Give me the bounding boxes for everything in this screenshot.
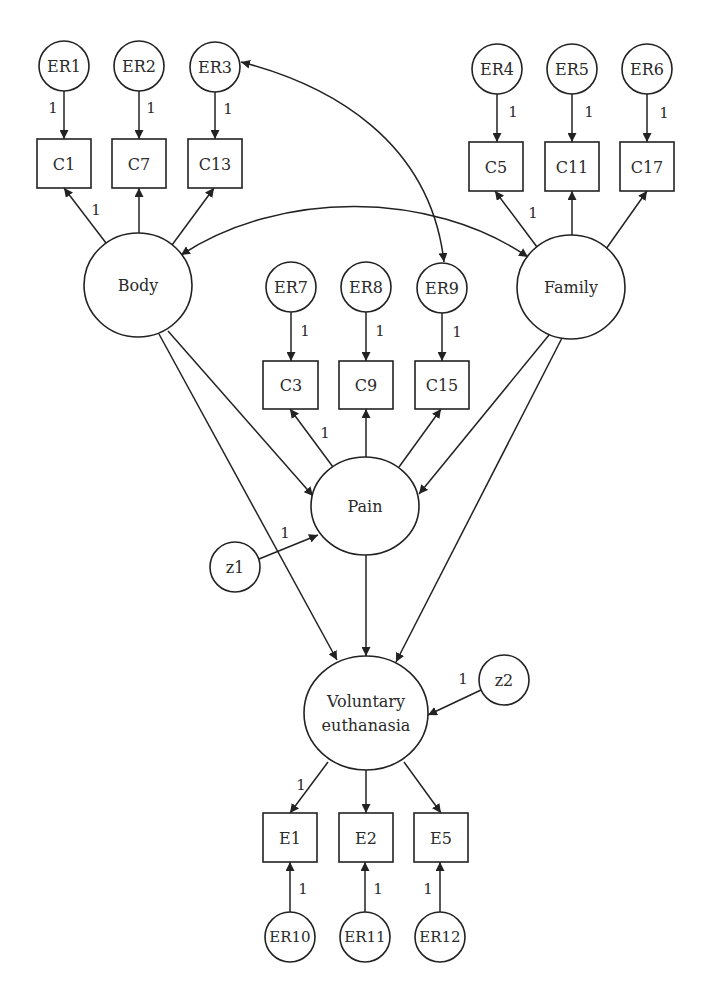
indicator-label: C15 bbox=[426, 376, 459, 395]
indicator-E1: E1 bbox=[263, 813, 317, 862]
error-label: ER4 bbox=[480, 60, 514, 79]
indicator-label: C9 bbox=[355, 376, 377, 395]
latent-family: Family bbox=[517, 235, 625, 339]
error-label: ER10 bbox=[269, 928, 310, 946]
error-label: z2 bbox=[495, 671, 514, 690]
weight-label: 1 bbox=[300, 322, 310, 340]
indicator-label: C5 bbox=[485, 158, 507, 177]
edge-Family-Pain bbox=[419, 335, 549, 494]
indicator-E2: E2 bbox=[339, 813, 393, 862]
latent-body: Body bbox=[84, 233, 192, 337]
edge-z2-VE bbox=[428, 690, 481, 715]
indicator-label: C1 bbox=[53, 155, 75, 174]
indicator-C11: C11 bbox=[545, 142, 599, 191]
indicator-label: C13 bbox=[199, 155, 232, 174]
indicator-C7: C7 bbox=[112, 139, 166, 188]
indicator-label: E2 bbox=[355, 829, 377, 848]
error-label: ER3 bbox=[198, 58, 232, 77]
weight-label: 1 bbox=[423, 880, 433, 898]
error-label: ER6 bbox=[630, 60, 664, 79]
latent-variables: Body Family Pain Voluntary euthanasia bbox=[84, 233, 625, 770]
error-ER11: ER11 bbox=[340, 912, 390, 962]
error-ER8: ER8 bbox=[341, 262, 391, 312]
error-ER7: ER7 bbox=[266, 262, 316, 312]
error-ER4: ER4 bbox=[472, 44, 522, 94]
error-label: z1 bbox=[226, 558, 245, 577]
weight-label: 1 bbox=[373, 880, 383, 898]
weight-label: 1 bbox=[375, 322, 385, 340]
diagram-svg: Body Family Pain Voluntary euthanasia ER… bbox=[0, 0, 703, 990]
weight-label: 1 bbox=[508, 103, 518, 121]
weight-label: 1 bbox=[298, 880, 308, 898]
weight-label: 1 bbox=[48, 99, 58, 117]
latent-pain: Pain bbox=[311, 457, 419, 555]
indicator-E5: E5 bbox=[414, 813, 468, 862]
indicator-label: E5 bbox=[430, 829, 452, 848]
indicator-C1: C1 bbox=[37, 139, 91, 188]
indicator-label: C3 bbox=[280, 376, 302, 395]
edge-Body-C13 bbox=[172, 188, 214, 245]
error-label: ER12 bbox=[419, 928, 460, 946]
indicator-C9: C9 bbox=[339, 361, 393, 409]
indicator-C3: C3 bbox=[263, 361, 318, 409]
weight-label: 1 bbox=[659, 104, 669, 122]
latent-ve-label-line1: Voluntary bbox=[326, 692, 405, 711]
error-ER12: ER12 bbox=[415, 912, 465, 962]
latent-family-label: Family bbox=[544, 278, 598, 297]
weight-label: 1 bbox=[528, 204, 538, 222]
weight-label: 1 bbox=[584, 103, 594, 121]
error-ER2: ER2 bbox=[114, 41, 164, 91]
weight-label: 1 bbox=[296, 776, 306, 794]
error-ER9: ER9 bbox=[417, 263, 467, 313]
error-label: ER2 bbox=[122, 57, 156, 76]
weight-label: 1 bbox=[320, 424, 330, 442]
edge-Family-C17 bbox=[606, 191, 647, 249]
indicator-C15: C15 bbox=[415, 361, 469, 409]
latent-pain-label: Pain bbox=[347, 497, 382, 516]
edge-VE-E5 bbox=[404, 762, 441, 813]
latent-ve-label-line2: euthanasia bbox=[322, 716, 411, 735]
edge-Pain-C15 bbox=[399, 409, 441, 467]
indicator-C17: C17 bbox=[620, 142, 674, 191]
weight-label: 1 bbox=[146, 99, 156, 117]
indicator-C13: C13 bbox=[188, 139, 242, 188]
weight-label: 1 bbox=[280, 524, 290, 542]
disturbance-z1: z1 bbox=[210, 542, 260, 592]
error-label: ER11 bbox=[344, 928, 385, 946]
error-ER3: ER3 bbox=[190, 42, 240, 92]
weight-label: 1 bbox=[91, 201, 101, 219]
weight-label: 1 bbox=[223, 100, 233, 118]
indicator-label: E1 bbox=[279, 829, 301, 848]
weight-label: 1 bbox=[452, 323, 462, 341]
indicator-label: C11 bbox=[556, 158, 589, 177]
latent-body-label: Body bbox=[118, 276, 159, 295]
sem-diagram: Body Family Pain Voluntary euthanasia ER… bbox=[0, 0, 703, 990]
error-ER1: ER1 bbox=[39, 41, 89, 91]
weight-label: 1 bbox=[458, 670, 468, 688]
disturbance-z2: z2 bbox=[479, 655, 529, 705]
covariance-Body-Family bbox=[181, 206, 528, 257]
indicator-label: C17 bbox=[631, 158, 664, 177]
error-ER10: ER10 bbox=[265, 912, 315, 962]
error-ER5: ER5 bbox=[547, 44, 597, 94]
error-label: ER8 bbox=[349, 278, 383, 297]
error-ER6: ER6 bbox=[622, 44, 672, 94]
covariance-ER3-ER9 bbox=[241, 62, 444, 262]
error-label: ER9 bbox=[425, 279, 459, 298]
error-label: ER5 bbox=[555, 60, 589, 79]
error-label: ER7 bbox=[274, 278, 308, 297]
indicator-C5: C5 bbox=[469, 142, 523, 191]
indicator-label: C7 bbox=[128, 155, 150, 174]
error-label: ER1 bbox=[47, 57, 81, 76]
latent-voluntary-euthanasia: Voluntary euthanasia bbox=[304, 656, 428, 770]
